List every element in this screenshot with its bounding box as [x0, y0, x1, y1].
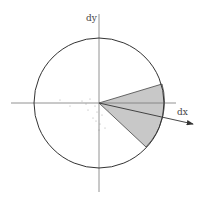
x-axis-label: dx	[177, 107, 188, 117]
diagram-canvas: dx dy	[0, 0, 204, 204]
y-axis-label: dy	[86, 13, 98, 23]
